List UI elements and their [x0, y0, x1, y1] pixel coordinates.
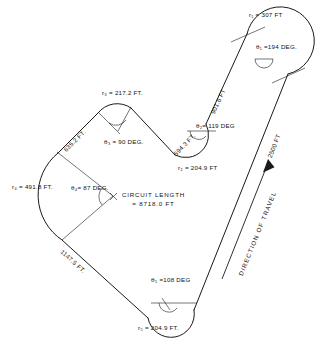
- r3-angle-markup: [98, 107, 131, 134]
- circuit-length-line1: CIRCUIT LENGTH: [122, 191, 185, 198]
- label-theta1: θ₁ =194 DEG.: [256, 43, 297, 51]
- curve-r3-path: [98, 104, 131, 113]
- label-r4: r₄ = 491.8 FT.: [12, 183, 53, 191]
- tangent-1147-path: [62, 240, 148, 318]
- r1-angle-arc: [255, 59, 273, 68]
- track-geometry-svg: [0, 0, 329, 345]
- label-theta2: θ₂= 119 DEG: [196, 122, 235, 130]
- r4-angle-markup: [57, 152, 117, 240]
- label-r5: r₅ = 204.9 FT.: [138, 324, 179, 332]
- r1-tick-end: [272, 68, 305, 83]
- circuit-length-note: CIRCUIT LENGTH = 8718.0 FT: [122, 190, 185, 209]
- curve-r4-path: [38, 153, 62, 240]
- r3-radius-b: [118, 107, 131, 131]
- circuit-length-line2: = 8718.0 FT: [132, 200, 174, 207]
- label-r3: r₃ = 217.2 FT.: [102, 89, 143, 97]
- circuit-diagram: r₁ = 307 FT θ₁ =194 DEG. 901.6 FT r₂ = 2…: [0, 0, 329, 345]
- label-r2: r₂ = 204.9 FT: [178, 164, 218, 172]
- tangent-594-path: [131, 108, 175, 155]
- r4-radius-b: [62, 196, 113, 240]
- r5-angle-markup: [151, 298, 197, 312]
- track-centerline: [38, 7, 314, 337]
- label-theta5: θ₅ =108 DEG: [151, 276, 190, 284]
- label-theta4: θ₄= 87 DEG.: [71, 184, 109, 192]
- label-theta3: θ₃ = 90 DEG.: [104, 138, 144, 146]
- label-r1: r₁ = 307 FT: [249, 11, 283, 19]
- r1-angle-markup: [231, 27, 305, 83]
- arrow-head: [263, 159, 275, 173]
- r5-vertex-mark: [162, 298, 170, 310]
